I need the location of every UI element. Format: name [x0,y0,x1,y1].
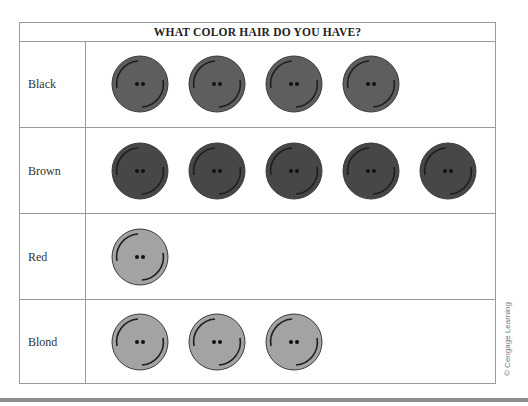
button-icon [265,55,323,113]
row-label-cell: Black [20,41,86,127]
button-icon [111,228,169,286]
button-icons-cell [86,214,495,299]
button-icon [188,55,246,113]
button-icon [342,55,400,113]
top-edge-line [355,0,528,2]
button-icon [265,313,323,371]
row-label-cell: Red [20,214,86,299]
button-icon [342,142,400,200]
row-label: Red [28,249,47,264]
table-row-red: Red [20,214,495,300]
row-label: Brown [28,163,61,178]
pictograph-table: WHAT COLOR HAIR DO YOU HAVE? Black Brown… [19,22,496,384]
copyright-credit: © Cengage Learning [503,302,512,376]
button-icons-cell [86,300,495,383]
button-icon [111,142,169,200]
button-icon [419,142,477,200]
row-label-cell: Blond [20,300,86,383]
button-icons-cell [86,128,495,213]
button-icon [265,142,323,200]
row-label-cell: Brown [20,128,86,213]
button-icon [111,55,169,113]
row-label: Blond [28,334,57,349]
table-row-black: Black [20,41,495,128]
row-label: Black [28,77,56,92]
chart-title: WHAT COLOR HAIR DO YOU HAVE? [20,23,495,42]
button-icon [188,142,246,200]
table-row-blond: Blond [20,300,495,383]
table-row-brown: Brown [20,128,495,214]
bottom-divider-bar [0,398,528,402]
button-icons-cell [86,41,495,127]
button-icon [111,313,169,371]
button-icon [188,313,246,371]
